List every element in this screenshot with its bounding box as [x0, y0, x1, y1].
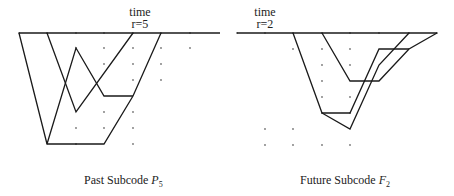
grid-dot	[75, 127, 77, 129]
grid-dot	[264, 144, 266, 146]
right-r-value: r=2	[245, 18, 285, 30]
grid-dot	[349, 48, 351, 50]
diagram-canvas	[0, 0, 454, 196]
grid-dot	[103, 127, 105, 129]
grid-dot	[264, 128, 266, 130]
grid-dot	[103, 111, 105, 113]
grid-dot	[349, 144, 351, 146]
grid-dot	[349, 96, 351, 98]
grid-dot	[321, 64, 323, 66]
grid-dot	[160, 79, 162, 81]
right-time-label: time r=2	[245, 6, 285, 30]
grid-dot	[160, 63, 162, 65]
grid-dot	[321, 96, 323, 98]
right-caption-sub: 2	[386, 180, 390, 189]
grid-dot	[349, 64, 351, 66]
trellis-path	[19, 33, 161, 144]
trellis-path	[47, 48, 133, 144]
trellis-path	[293, 33, 409, 113]
grid-dot	[292, 144, 294, 146]
grid-dot	[321, 80, 323, 82]
grid-dot	[132, 111, 134, 113]
grid-dot	[321, 48, 323, 50]
grid-dot	[132, 63, 134, 65]
right-trellis	[236, 32, 438, 146]
left-trellis	[18, 32, 220, 145]
right-caption: Future Subcode F2	[300, 173, 390, 189]
grid-dot	[103, 47, 105, 49]
left-caption: Past Subcode P5	[84, 173, 163, 189]
grid-dot	[103, 63, 105, 65]
left-caption-symbol: P	[151, 173, 158, 187]
grid-dot	[321, 144, 323, 146]
grid-dot	[132, 79, 134, 81]
grid-dot	[160, 47, 162, 49]
grid-dot	[189, 47, 191, 49]
left-time-label: time r=5	[120, 6, 160, 30]
grid-dot	[292, 48, 294, 50]
right-caption-symbol: F	[379, 173, 386, 187]
right-caption-text: Future Subcode	[300, 173, 379, 187]
grid-dot	[292, 128, 294, 130]
grid-dot	[132, 127, 134, 129]
grid-dot	[132, 47, 134, 49]
grid-dot	[132, 143, 134, 145]
left-r-value: r=5	[120, 18, 160, 30]
left-caption-sub: 5	[159, 180, 163, 189]
trellis-path	[322, 33, 437, 81]
left-caption-text: Past Subcode	[84, 173, 151, 187]
